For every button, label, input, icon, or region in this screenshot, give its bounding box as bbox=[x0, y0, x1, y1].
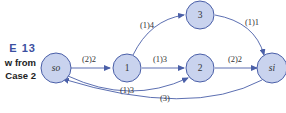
node-3: 3 bbox=[186, 1, 214, 29]
node-si: si bbox=[257, 53, 286, 83]
svg-text:3: 3 bbox=[198, 10, 203, 20]
node-1: 1 bbox=[113, 54, 141, 82]
node-2: 2 bbox=[186, 54, 214, 82]
edge-label-so-1: (2)2 bbox=[82, 54, 96, 64]
edge-label-3-si: (1)1 bbox=[245, 17, 259, 27]
edge-label-si-so: (3) bbox=[160, 93, 170, 103]
svg-text:1: 1 bbox=[125, 63, 130, 73]
edge-label-1-3: (1)4 bbox=[140, 20, 155, 30]
edge-label-1-2: (1)3 bbox=[153, 54, 167, 64]
svg-text:so: so bbox=[52, 63, 61, 73]
node-so: so bbox=[41, 53, 71, 83]
flow-network-diagram: (2)2 (1)4 (1)3 (1)3 (1)1 (2)2 (3) so 1 2… bbox=[0, 0, 286, 113]
svg-text:si: si bbox=[269, 63, 276, 73]
svg-text:2: 2 bbox=[198, 63, 203, 73]
edge-label-2-si: (2)2 bbox=[228, 54, 242, 64]
